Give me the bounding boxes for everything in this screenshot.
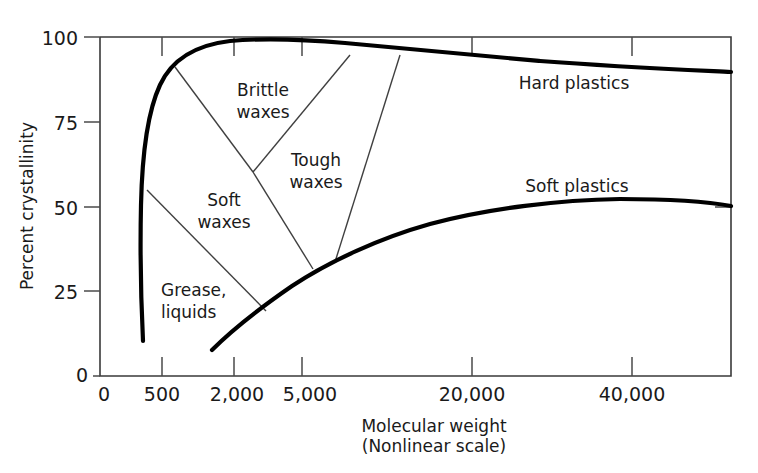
x-tick-label-500: 500 (144, 383, 180, 405)
region-label-soft-waxes-line2: waxes (197, 212, 250, 232)
x-tick-label-40000: 40,000 (599, 383, 665, 405)
region-label-grease-liquids-line1: Grease, (161, 280, 226, 300)
divider-tough-plastics (335, 55, 400, 262)
y-tick-label-75: 75 (54, 112, 78, 134)
y-axis-title: Percent crystallinity (17, 122, 37, 290)
y-tick-label-0: 0 (76, 364, 88, 386)
chart-page: 100 75 50 25 0 Percent crystallinity 0 5… (0, 0, 758, 473)
region-label-tough-waxes-line2: waxes (289, 172, 342, 192)
y-tick-label-25: 25 (54, 281, 78, 303)
curve-label-hard-plastics: Hard plastics (519, 73, 630, 93)
plot-frame (100, 37, 731, 376)
region-label-grease-liquids-line2: liquids (161, 302, 217, 322)
crystallinity-vs-molecular-weight-chart: 100 75 50 25 0 Percent crystallinity 0 5… (0, 0, 758, 473)
x-axis-subtitle: (Nonlinear scale) (362, 436, 506, 456)
region-label-brittle-waxes-line2: waxes (236, 102, 289, 122)
curve-lower-soft-plastics (212, 199, 731, 350)
curve-label-soft-plastics: Soft plastics (525, 176, 628, 196)
x-tick-label-0: 0 (98, 383, 110, 405)
y-tick-label-100: 100 (42, 27, 78, 49)
region-label-brittle-waxes-line1: Brittle (237, 80, 289, 100)
x-tick-label-2000: 2,000 (210, 383, 264, 405)
region-label-soft-waxes-line1: Soft (207, 190, 241, 210)
x-tick-label-5000: 5,000 (283, 383, 337, 405)
y-tick-label-50: 50 (54, 197, 78, 219)
region-label-tough-waxes-line1: Tough (290, 150, 341, 170)
x-tick-label-20000: 20,000 (439, 383, 505, 405)
x-axis-title: Molecular weight (361, 416, 507, 436)
